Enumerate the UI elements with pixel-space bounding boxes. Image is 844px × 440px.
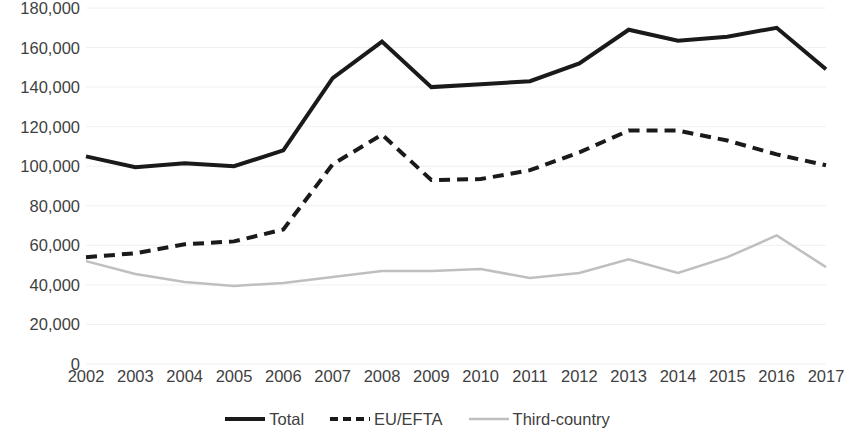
- chart-legend: TotalEU/EFTAThird-country: [0, 404, 835, 434]
- x-axis-tick-label: 2010: [462, 366, 499, 386]
- x-axis-tick-label: 2015: [709, 366, 746, 386]
- y-axis: 180,000160,000140,000120,000100,00080,00…: [0, 0, 80, 372]
- x-axis-tick-label: 2006: [265, 366, 302, 386]
- x-axis-tick-label: 2002: [68, 366, 105, 386]
- plot-svg: [86, 8, 826, 364]
- dashed-line-swatch-icon: [330, 412, 370, 426]
- y-axis-tick-label: 140,000: [0, 79, 80, 96]
- y-axis-tick-label: 20,000: [0, 316, 80, 333]
- y-axis-tick-label: 180,000: [0, 0, 80, 17]
- series-line-eu-efta: [86, 131, 826, 258]
- gridlines: [86, 8, 826, 364]
- legend-label: Total: [269, 410, 304, 428]
- x-axis-tick-label: 2011: [512, 366, 547, 386]
- y-axis-tick-label: 80,000: [0, 198, 80, 215]
- legend-label: EU/EFTA: [374, 410, 442, 428]
- x-axis-tick-label: 2012: [561, 366, 598, 386]
- x-axis-tick-label: 2013: [610, 366, 647, 386]
- x-axis-tick-label: 2004: [166, 366, 203, 386]
- x-axis-tick-label: 2008: [364, 366, 401, 386]
- legend-item-third-country[interactable]: Third-country: [469, 410, 610, 428]
- legend-item-total[interactable]: Total: [225, 410, 304, 428]
- series-line-total: [86, 28, 826, 167]
- legend-item-eu-efta[interactable]: EU/EFTA: [330, 410, 442, 428]
- series-lines: [86, 28, 826, 286]
- x-axis-tick-label: 2016: [758, 366, 795, 386]
- plot-area: [86, 8, 826, 364]
- x-axis-tick-label: 2009: [413, 366, 450, 386]
- y-axis-tick-label: 100,000: [0, 158, 80, 175]
- x-axis-tick-label: 2003: [117, 366, 154, 386]
- x-axis-tick-label: 2017: [808, 366, 844, 386]
- y-axis-tick-label: 60,000: [0, 237, 80, 254]
- x-axis-tick-label: 2014: [660, 366, 697, 386]
- legend-label: Third-country: [513, 410, 610, 428]
- gray-line-swatch-icon: [469, 412, 509, 426]
- solid-line-swatch-icon: [225, 412, 265, 426]
- y-axis-tick-label: 40,000: [0, 277, 80, 294]
- x-axis: 2002200320042005200620072008200920102011…: [86, 366, 826, 392]
- y-axis-tick-label: 120,000: [0, 119, 80, 136]
- y-axis-tick-label: 160,000: [0, 40, 80, 57]
- x-axis-tick-label: 2005: [216, 366, 253, 386]
- x-axis-tick-label: 2007: [314, 366, 351, 386]
